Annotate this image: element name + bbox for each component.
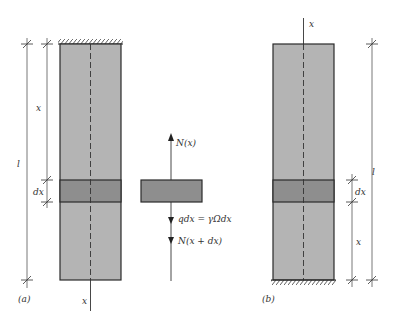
- arrow-down-icon: [168, 237, 174, 244]
- dim-dx-label-b: dx: [355, 187, 366, 197]
- caption-a: (a): [18, 294, 31, 304]
- fixed-support-top-hatch: [58, 39, 123, 44]
- dim-x-label-b: x: [356, 237, 361, 247]
- arrow-up-icon: [168, 133, 174, 141]
- caption-b: (b): [262, 294, 275, 304]
- x-axis-label-a: x: [82, 296, 87, 306]
- free-body-diagram: N(x) qdx = γΩdx N(x + dx): [141, 133, 232, 281]
- arrow-down-icon: [168, 217, 174, 224]
- dim-dx-label-a: dx: [33, 187, 44, 197]
- element-dx-box: [141, 180, 202, 202]
- dim-l-label-a: l: [17, 159, 20, 169]
- force-label-weight: qdx = γΩdx: [178, 214, 232, 224]
- figure-a: x l x dx (a): [17, 38, 123, 311]
- fixed-support-bottom-hatch: [271, 280, 336, 285]
- dim-l-label-b: l: [372, 167, 375, 177]
- force-label-top: N(x): [175, 138, 196, 148]
- column-diagram: x l x dx (a) N(x) qdx = γΩdx N(x + dx): [0, 0, 393, 319]
- dim-x-label-a: x: [36, 103, 41, 113]
- figure-b: x dx x l (b): [262, 18, 378, 304]
- x-axis-label-b: x: [309, 19, 314, 29]
- force-label-bottom: N(x + dx): [177, 236, 223, 246]
